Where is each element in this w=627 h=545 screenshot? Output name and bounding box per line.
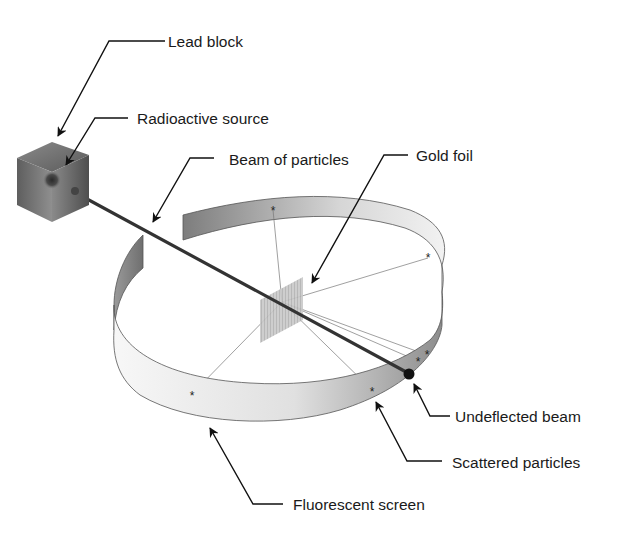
fluorescent-screen-left-segment: [114, 235, 143, 330]
label-scattered-particles: Scattered particles: [452, 454, 581, 471]
gold-foil: [260, 277, 303, 343]
label-radioactive-source: Radioactive source: [137, 110, 269, 127]
label-undeflected-beam: Undeflected beam: [455, 408, 581, 425]
label-lead-block: Lead block: [168, 33, 243, 50]
label-beam-of-particles: Beam of particles: [229, 151, 349, 168]
hit-mark: *: [190, 389, 195, 403]
labels: Lead block Radioactive source Beam of pa…: [137, 33, 581, 513]
hit-mark: *: [370, 385, 375, 399]
undeflected-beam-spot: [404, 369, 415, 380]
hit-mark: *: [416, 355, 421, 369]
radioactive-source: [43, 171, 61, 189]
label-fluorescent-screen: Fluorescent screen: [293, 496, 425, 513]
hit-mark: *: [426, 251, 431, 265]
hit-mark: *: [271, 204, 276, 218]
lead-block: [17, 142, 89, 222]
gold-foil-experiment-diagram: * * * * * * Lead block Radioactive sourc…: [0, 0, 627, 545]
scattered-particles-pointer: [376, 402, 442, 461]
label-gold-foil: Gold foil: [416, 147, 473, 164]
undeflected-beam-pointer: [414, 384, 450, 416]
fluorescent-screen-back: [183, 196, 445, 292]
fluorescent-screen-pointer: [210, 428, 283, 504]
hit-mark: *: [425, 348, 430, 362]
